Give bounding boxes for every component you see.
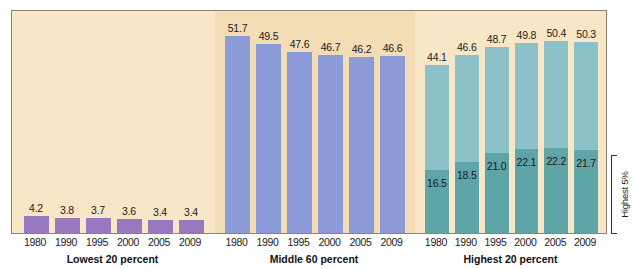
- x-tick: 2005: [348, 235, 373, 251]
- bar-segment-highest-5[interactable]: 21.0: [485, 153, 509, 233]
- x-tick: 1995: [484, 235, 508, 251]
- bar-column[interactable]: 4.2: [24, 11, 49, 233]
- bar-value-label: 46.7: [321, 42, 341, 53]
- bar-segment-value-label: 16.5: [425, 178, 449, 189]
- group-title-middle-60: Middle 60 percent: [214, 252, 414, 266]
- bar[interactable]: 18.5: [455, 55, 479, 233]
- bar-segment-highest-5[interactable]: 21.7: [574, 150, 598, 233]
- bar-segment-highest-5[interactable]: 16.5: [425, 170, 449, 233]
- bar-column[interactable]: 44.1 16.5: [425, 11, 449, 233]
- bar[interactable]: 22.2: [544, 41, 568, 233]
- bar-value-label: 46.6: [457, 42, 477, 53]
- x-tick: 2000: [116, 235, 141, 251]
- bar-segment-highest-5[interactable]: 18.5: [455, 162, 479, 233]
- bar-value-label: 3.4: [184, 207, 198, 218]
- bar-column[interactable]: 46.2: [349, 11, 374, 233]
- bar-value-label: 48.7: [487, 34, 507, 45]
- x-ticks-highest-20: 1980 1990 1995 2000 2005 2009: [414, 235, 607, 251]
- bars-lowest-20: 4.2 3.8 3.7 3.6 3.4: [12, 11, 215, 233]
- x-tick: 1980: [23, 235, 48, 251]
- bar-group-highest-20: 44.1 16.5 46.6 18.5: [415, 11, 607, 233]
- bar-column[interactable]: 49.5: [256, 11, 281, 233]
- x-tick: 1980: [424, 235, 448, 251]
- bars-middle-60: 51.7 49.5 47.6 46.7 46.2: [215, 11, 415, 233]
- x-tick: 1990: [454, 235, 478, 251]
- bar-segment-value-label: 22.1: [515, 157, 539, 168]
- bar-column[interactable]: 49.8 22.1: [515, 11, 539, 233]
- bar[interactable]: 21.0: [485, 47, 509, 233]
- x-ticks-middle-60: 1980 1990 1995 2000 2005 2009: [214, 235, 414, 251]
- bar-column[interactable]: 3.4: [179, 11, 204, 233]
- x-axis: 1980 1990 1995 2000 2005 2009 1980 1990 …: [11, 235, 607, 251]
- bar-value-label: 50.3: [576, 29, 596, 40]
- bar-value-label: 47.6: [290, 39, 310, 50]
- bar-value-label: 3.4: [153, 207, 167, 218]
- bar-column[interactable]: 3.8: [55, 11, 80, 233]
- bar[interactable]: 16.5: [425, 65, 449, 233]
- bar-column[interactable]: 47.6: [287, 11, 312, 233]
- bar-value-label: 49.8: [517, 30, 537, 41]
- x-tick: 2000: [317, 235, 342, 251]
- bar[interactable]: [24, 216, 49, 233]
- bar-segment-highest-5[interactable]: 22.1: [515, 149, 539, 233]
- bar-column[interactable]: 3.6: [117, 11, 142, 233]
- bar-value-label: 3.6: [122, 206, 136, 217]
- bar-column[interactable]: 3.4: [148, 11, 173, 233]
- x-tick: 2000: [514, 235, 538, 251]
- bar-segment-value-label: 21.0: [485, 161, 509, 172]
- bar-value-label: 3.8: [60, 205, 74, 216]
- bar-column[interactable]: 50.3 21.7: [574, 11, 598, 233]
- x-tick: 1995: [286, 235, 311, 251]
- x-tick: 2005: [147, 235, 172, 251]
- group-titles: Lowest 20 percent Middle 60 percent High…: [11, 252, 607, 268]
- bar-column[interactable]: 51.7: [225, 11, 250, 233]
- bar[interactable]: [179, 220, 204, 233]
- bar-column[interactable]: 46.7: [318, 11, 343, 233]
- bar-value-label: 49.5: [259, 31, 279, 42]
- bar-value-label: 46.2: [352, 44, 372, 55]
- x-tick: 1990: [255, 235, 280, 251]
- bar-value-label: 4.2: [29, 203, 43, 214]
- group-title-highest-20: Highest 20 percent: [414, 252, 607, 266]
- x-ticks-lowest-20: 1980 1990 1995 2000 2005 2009: [11, 235, 214, 251]
- bar-column[interactable]: 3.7: [86, 11, 111, 233]
- x-tick: 2005: [543, 235, 567, 251]
- bar-value-label: 3.7: [91, 205, 105, 216]
- x-tick: 2009: [573, 235, 597, 251]
- x-tick: 1990: [54, 235, 79, 251]
- bar[interactable]: [349, 57, 374, 233]
- bars-highest-20: 44.1 16.5 46.6 18.5: [415, 11, 607, 233]
- bar[interactable]: [148, 220, 173, 233]
- bar[interactable]: 21.7: [574, 42, 598, 233]
- group-title-lowest-20: Lowest 20 percent: [11, 252, 214, 266]
- income-share-bar-chart: 4.2 3.8 3.7 3.6 3.4: [0, 0, 633, 269]
- bar-group-middle-60: 51.7 49.5 47.6 46.7 46.2: [215, 11, 415, 233]
- annotation-label: Highest 5%: [619, 171, 630, 218]
- bar[interactable]: [256, 44, 281, 233]
- bar[interactable]: [225, 36, 250, 233]
- x-tick: 1995: [85, 235, 110, 251]
- bar-column[interactable]: 50.4 22.2: [544, 11, 568, 233]
- bar-segment-highest-5[interactable]: 22.2: [544, 148, 568, 233]
- bar[interactable]: 22.1: [515, 43, 539, 233]
- bar-value-label: 44.1: [427, 52, 447, 63]
- bar-value-label: 51.7: [228, 23, 248, 34]
- bar[interactable]: [86, 218, 111, 233]
- bar[interactable]: [318, 55, 343, 233]
- bar[interactable]: [55, 218, 80, 233]
- bar-value-label: 50.4: [546, 28, 566, 39]
- bar-value-label: 46.6: [383, 43, 403, 54]
- plot-area: 4.2 3.8 3.7 3.6 3.4: [11, 10, 607, 234]
- bar[interactable]: [287, 52, 312, 233]
- bar[interactable]: [380, 56, 405, 233]
- bar[interactable]: [117, 219, 142, 233]
- bar-segment-value-label: 18.5: [455, 170, 479, 181]
- bar-column[interactable]: 48.7 21.0: [485, 11, 509, 233]
- bar-segment-value-label: 22.2: [544, 156, 568, 167]
- x-tick: 2009: [379, 235, 404, 251]
- bar-group-lowest-20: 4.2 3.8 3.7 3.6 3.4: [12, 11, 215, 233]
- bar-column[interactable]: 46.6 18.5: [455, 11, 479, 233]
- bar-segment-value-label: 21.7: [574, 158, 598, 169]
- bar-column[interactable]: 46.6: [380, 11, 405, 233]
- highest-5-percent-annotation: Highest 5%: [610, 155, 633, 234]
